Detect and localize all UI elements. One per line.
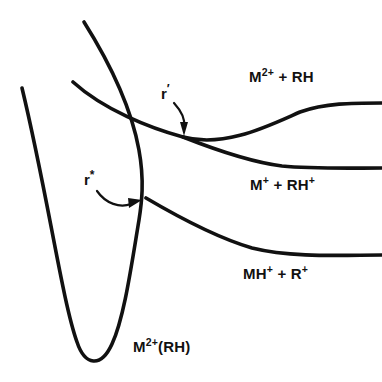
label-upper-asymptote-charge: 2+ (262, 66, 274, 78)
curve-bound-well (22, 22, 142, 361)
label-crossing-r-star: r* (84, 171, 95, 188)
label-r-star-mark: * (90, 168, 95, 182)
label-middle-asymptote: M+ + RH+ (250, 176, 315, 193)
label-lower-asymptote-base: MH (243, 265, 267, 282)
label-upper-asymptote-base: M (249, 68, 262, 85)
r-star-arrow-line (97, 191, 131, 205)
curve-middle-asymptote (183, 137, 382, 168)
r-prime-arrowhead-icon (180, 122, 188, 136)
label-bound-well-mid: (RH) (158, 338, 190, 355)
label-bound-well-base: M (133, 338, 146, 355)
label-middle-asymptote-charge2: + (309, 174, 315, 186)
label-lower-asymptote-mid: + R (273, 265, 302, 282)
label-upper-asymptote-mid: + RH (274, 68, 314, 85)
label-bound-well-charge: 2+ (146, 336, 158, 348)
label-crossing-r-prime: r′ (161, 85, 170, 102)
label-lower-asymptote: MH+ + R+ (243, 265, 308, 282)
label-upper-asymptote: M2+ + RH (249, 68, 314, 85)
label-middle-asymptote-base: M (250, 176, 263, 193)
label-lower-asymptote-charge2: + (302, 263, 308, 275)
diagram-canvas (0, 0, 382, 382)
label-bound-well: M2+(RH) (133, 338, 191, 355)
curve-lower-asymptote (146, 198, 382, 255)
label-r-prime-mark: ′ (167, 82, 170, 96)
label-middle-asymptote-mid: + RH (269, 176, 309, 193)
potential-energy-diagram: M2+ + RH M+ + RH+ MH+ + R+ M2+(RH) r′ r* (0, 0, 382, 382)
